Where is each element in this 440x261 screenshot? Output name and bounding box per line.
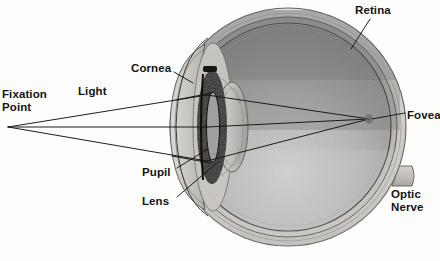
label-pupil: Pupil <box>142 166 171 179</box>
label-lens: Lens <box>142 195 169 208</box>
label-fovea: Fovea <box>407 109 440 122</box>
label-cornea: Cornea <box>131 62 171 75</box>
label-light: Light <box>78 85 107 98</box>
label-fixation-point: Fixation Point <box>2 88 47 113</box>
eye-anatomy-illustration <box>0 0 440 261</box>
label-retina: Retina <box>355 4 391 17</box>
label-optic-nerve: Optic Nerve <box>391 188 423 213</box>
eye-diagram-figure: Fixation Point Light Cornea Retina Fovea… <box>0 0 440 261</box>
